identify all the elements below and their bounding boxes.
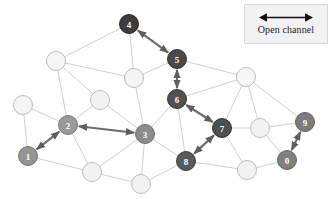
edges-layer (23, 24, 305, 184)
graph-node-5[interactable]: 5 (168, 50, 187, 69)
node-label: 8 (184, 157, 189, 167)
node-circle[interactable] (83, 163, 102, 182)
open-channel-edge (194, 135, 214, 153)
network-diagram-figure: 0123456789 Open channel (0, 0, 332, 199)
graph-node-1[interactable]: 1 (19, 147, 38, 166)
graph-node-2[interactable]: 2 (59, 116, 78, 135)
graph-node-8[interactable]: 8 (177, 152, 196, 171)
graph-edge (177, 77, 246, 99)
node-label: 5 (175, 55, 180, 65)
graph-node-0[interactable]: 0 (278, 151, 297, 170)
node-label: 7 (220, 124, 225, 134)
graph-node-9[interactable]: 9 (296, 113, 315, 132)
graph-node-unlabeled[interactable] (91, 91, 110, 110)
legend-label: Open channel (258, 24, 314, 36)
node-circle[interactable] (237, 68, 256, 87)
graph-node-unlabeled[interactable] (47, 52, 66, 71)
graph-edge (246, 77, 305, 122)
open-channel-edge (292, 132, 301, 150)
node-label: 9 (303, 118, 308, 128)
node-label: 0 (285, 156, 290, 166)
graph-node-unlabeled[interactable] (125, 69, 144, 88)
graph-edge (56, 61, 134, 78)
graph-node-unlabeled[interactable] (14, 96, 33, 115)
graph-edge (56, 24, 129, 61)
node-circle[interactable] (47, 52, 66, 71)
node-circle[interactable] (238, 161, 257, 180)
node-circle[interactable] (132, 175, 151, 194)
node-circle[interactable] (14, 96, 33, 115)
node-label: 6 (175, 95, 180, 105)
node-circle[interactable] (125, 69, 144, 88)
node-circle[interactable] (91, 91, 110, 110)
node-label: 4 (127, 20, 132, 30)
graph-node-7[interactable]: 7 (213, 119, 232, 138)
graph-node-unlabeled[interactable] (251, 119, 270, 138)
graph-node-unlabeled[interactable] (83, 163, 102, 182)
graph-node-4[interactable]: 4 (120, 15, 139, 34)
graph-node-3[interactable]: 3 (136, 125, 155, 144)
node-circle[interactable] (251, 119, 270, 138)
graph-node-unlabeled[interactable] (237, 68, 256, 87)
graph-node-unlabeled[interactable] (238, 161, 257, 180)
open-channel-edge (186, 105, 213, 122)
graph-node-unlabeled[interactable] (132, 175, 151, 194)
node-label: 3 (143, 130, 148, 140)
graph-edge (177, 59, 246, 77)
node-label: 2 (66, 121, 71, 131)
double-headed-arrow-icon (258, 12, 314, 23)
graph-node-6[interactable]: 6 (168, 90, 187, 109)
node-label: 1 (26, 152, 31, 162)
open-channel-edge (138, 30, 168, 52)
open-channel-edge (79, 126, 134, 132)
legend: Open channel (244, 4, 328, 44)
open-channel-edge (37, 132, 60, 150)
